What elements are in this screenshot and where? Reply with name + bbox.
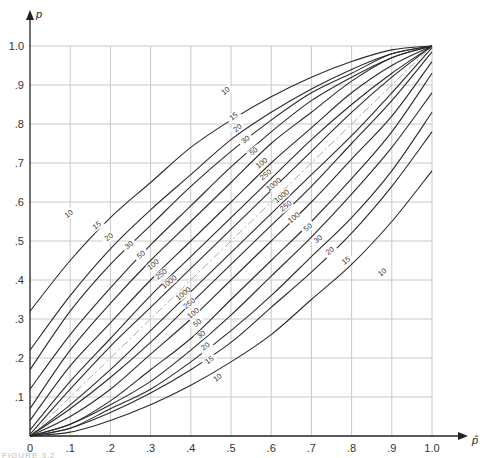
y-tick-label: .9 bbox=[15, 79, 24, 91]
x-tick-label: .2 bbox=[106, 442, 115, 454]
y-tick-label: .6 bbox=[15, 196, 24, 208]
confidence-band-chart: 1015203050100250100010152030501002501000… bbox=[0, 0, 483, 458]
x-tick-label: .3 bbox=[146, 442, 155, 454]
y-tick-label: 1.0 bbox=[9, 40, 24, 52]
figure-caption: FIGURE 3.2 bbox=[2, 451, 56, 458]
y-axis-label: p bbox=[35, 8, 42, 20]
x-tick-label: .4 bbox=[186, 442, 195, 454]
lower-label-n-100: 100 bbox=[286, 210, 301, 225]
y-tick-label: .1 bbox=[15, 391, 24, 403]
x-tick-label: 1.0 bbox=[424, 442, 439, 454]
x-axis-arrow-icon bbox=[458, 432, 468, 440]
y-tick-label: .5 bbox=[15, 235, 24, 247]
y-tick-label: .7 bbox=[15, 157, 24, 169]
x-tick-label: .9 bbox=[387, 442, 396, 454]
y-tick-label: .3 bbox=[15, 313, 24, 325]
x-axis-label: p̂ bbox=[471, 434, 478, 446]
x-tick-label: .8 bbox=[347, 442, 356, 454]
x-tick-label: .5 bbox=[226, 442, 235, 454]
x-tick-label: .7 bbox=[307, 442, 316, 454]
x-tick-label: .1 bbox=[66, 442, 75, 454]
y-tick-label: .2 bbox=[15, 352, 24, 364]
y-tick-label: .4 bbox=[15, 274, 24, 286]
tick-labels: 0.1.2.3.4.5.6.7.8.91.0.1.2.3.4.5.6.7.8.9… bbox=[9, 40, 440, 454]
y-axis-arrow-icon bbox=[26, 10, 34, 20]
x-tick-label: .6 bbox=[267, 442, 276, 454]
y-tick-label: .8 bbox=[15, 118, 24, 130]
